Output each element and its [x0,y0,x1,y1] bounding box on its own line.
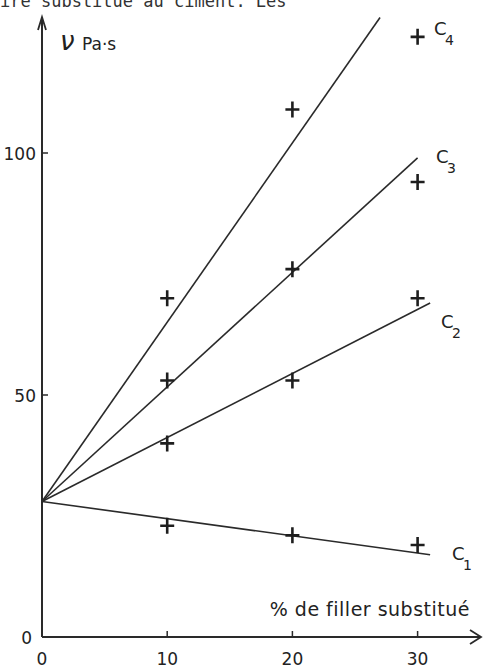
data-point-marker [411,174,425,190]
y-tick-label: 100 [4,144,36,164]
x-axis-label: % de filler substitué [270,598,470,620]
data-point-marker [160,290,174,306]
x-tick-label: 30 [407,649,429,669]
y-axis-symbol: ν [60,26,75,56]
data-point-marker [285,527,299,543]
fit-line-c2 [42,303,430,501]
series-label-subscript: 1 [463,557,472,573]
data-point-marker [160,435,174,451]
x-tick-label: 20 [282,649,304,669]
viscosity-chart: 0102030050100νPa·s% de filler substituéC… [0,0,494,671]
data-point-marker [285,101,299,117]
x-tick-label: 10 [156,649,178,669]
y-axis-unit: Pa·s [82,34,116,54]
data-point-marker [411,537,425,553]
y-tick-label: 50 [14,386,36,406]
series-label-subscript: 4 [445,32,454,48]
data-point-marker [411,29,425,45]
data-point-marker [411,290,425,306]
series-label-subscript: 3 [447,160,456,176]
fit-line-c4 [42,17,380,501]
data-point-marker [285,261,299,277]
data-point-marker [285,372,299,388]
fit-line-c1 [42,501,430,554]
fit-line-c3 [42,158,418,502]
y-tick-label: 0 [21,628,32,648]
x-tick-label: 0 [37,649,48,669]
series-label-subscript: 2 [452,325,461,341]
data-point-marker [160,372,174,388]
